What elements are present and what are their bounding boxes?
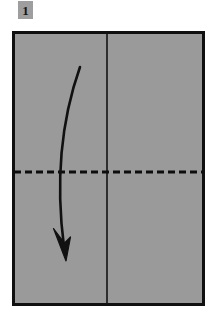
fold-diagram-canvas — [0, 0, 219, 321]
paper-sheet — [14, 33, 204, 305]
origami-step-figure: 1 Fold the top half down along the dashe… — [0, 0, 219, 321]
